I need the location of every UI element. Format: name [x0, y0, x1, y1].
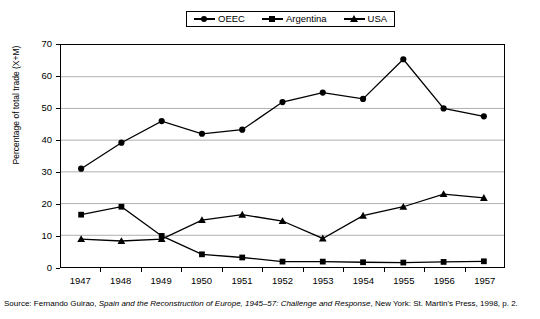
legend-item-oeec: OEEC: [194, 14, 245, 24]
circle-marker-icon: [239, 127, 245, 133]
x-tick-mark: [384, 268, 385, 272]
x-tick-mark: [100, 268, 101, 272]
series-line: [81, 207, 484, 263]
square-marker-icon: [262, 14, 283, 23]
x-tick-label: 1957: [474, 276, 495, 286]
x-tick-mark: [465, 268, 466, 272]
square-marker-icon: [119, 204, 125, 210]
square-marker-icon: [320, 259, 326, 265]
source-suffix: , New York: St. Martin's Press, 1998, p.…: [370, 299, 517, 308]
x-tick-mark: [141, 268, 142, 272]
x-tick-label: 1947: [70, 276, 91, 286]
circle-marker-icon: [194, 14, 215, 23]
legend-label-oeec: OEEC: [218, 14, 245, 24]
y-tick-label: 50: [0, 103, 52, 113]
circle-marker-icon: [279, 99, 285, 105]
square-marker-icon: [441, 259, 447, 265]
legend-item-usa: USA: [344, 14, 388, 24]
x-tick-mark: [262, 268, 263, 272]
circle-marker-icon: [400, 56, 406, 62]
x-tick-mark: [222, 268, 223, 272]
triangle-marker-icon: [440, 190, 448, 197]
circle-marker-icon: [78, 166, 84, 172]
circle-marker-icon: [441, 105, 447, 111]
x-tick-label: 1956: [434, 276, 455, 286]
legend-item-argentina: Argentina: [262, 14, 327, 24]
triangle-marker-icon: [238, 211, 246, 218]
square-marker-icon: [280, 259, 286, 265]
square-marker-icon: [481, 258, 487, 264]
y-tick-label: 70: [0, 39, 52, 49]
chart-legend: OEEC Argentina USA: [186, 11, 395, 27]
y-tick-label: 60: [0, 71, 52, 81]
x-tick-label: 1953: [312, 276, 333, 286]
x-tick-label: 1949: [151, 276, 172, 286]
series-oeec: [78, 56, 487, 172]
y-tick-label: 20: [0, 199, 52, 209]
y-tick-mark: [56, 268, 60, 269]
series-canvas: [61, 45, 504, 267]
legend-label-argentina: Argentina: [286, 14, 327, 24]
circle-marker-icon: [159, 118, 165, 124]
series-usa: [77, 190, 487, 244]
x-tick-mark: [424, 268, 425, 272]
y-tick-label: 30: [0, 167, 52, 177]
source-note: Source: Fernando Guirao, Spain and the R…: [4, 299, 518, 309]
x-tick-label: 1950: [191, 276, 212, 286]
y-tick-label: 40: [0, 135, 52, 145]
circle-marker-icon: [320, 89, 326, 95]
plot-area: [60, 44, 505, 268]
y-tick-label: 10: [0, 231, 52, 241]
series-line: [81, 59, 484, 168]
triangle-marker-icon: [344, 14, 365, 23]
source-prefix: Source: Fernando Guirao,: [4, 299, 99, 308]
source-title: Spain and the Reconstruction of Europe, …: [99, 299, 371, 308]
circle-marker-icon: [199, 131, 205, 137]
square-marker-icon: [360, 259, 366, 265]
square-marker-icon: [199, 251, 205, 257]
circle-marker-icon: [481, 113, 487, 119]
x-tick-label: 1948: [110, 276, 131, 286]
x-tick-mark: [181, 268, 182, 272]
square-marker-icon: [400, 260, 406, 266]
chart-root: OEEC Argentina USA Percentage of total t…: [0, 0, 540, 319]
x-tick-mark: [303, 268, 304, 272]
y-tick-label: 0: [0, 263, 52, 273]
x-tick-label: 1951: [231, 276, 252, 286]
legend-label-usa: USA: [368, 14, 388, 24]
x-tick-mark: [343, 268, 344, 272]
series-argentina: [78, 204, 487, 266]
square-marker-icon: [239, 255, 245, 261]
x-tick-label: 1955: [393, 276, 414, 286]
x-tick-label: 1952: [272, 276, 293, 286]
x-tick-label: 1954: [353, 276, 374, 286]
circle-marker-icon: [118, 140, 124, 146]
circle-marker-icon: [360, 96, 366, 102]
square-marker-icon: [78, 212, 84, 218]
